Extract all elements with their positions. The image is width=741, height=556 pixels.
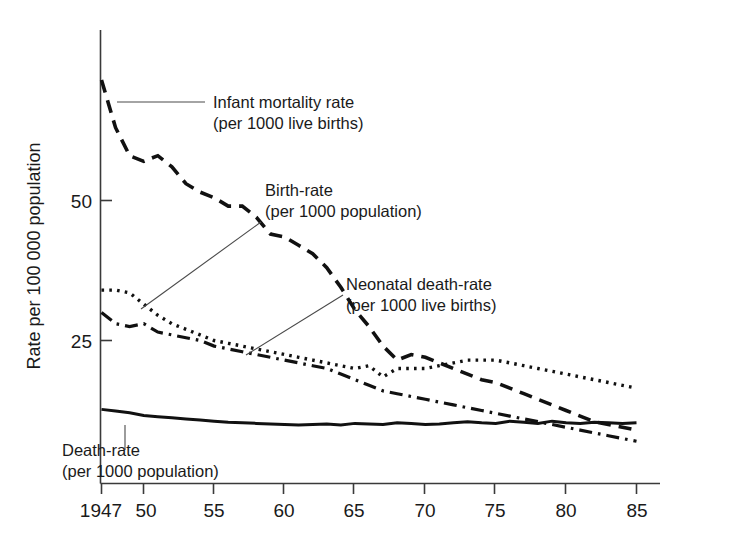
x-tick-label-70: 70 (414, 500, 435, 521)
annotation-neonatal-line1: Neonatal death-rate (346, 275, 492, 293)
leader-line-birth (141, 222, 261, 309)
annotation-death-line1: Death-rate (62, 441, 140, 459)
chart-figure: 50 25 1947 50 55 60 65 70 75 80 85 Rate … (0, 0, 741, 556)
annotation-neonatal: Neonatal death-rate (per 1000 live birth… (346, 275, 496, 314)
series-group (102, 80, 637, 441)
annotation-infant: Infant mortality rate (per 1000 live bir… (213, 93, 363, 132)
y-axis-title: Rate per 100 000 population (24, 142, 44, 369)
x-tick-label-55: 55 (203, 500, 224, 521)
leader-lines-group (117, 102, 343, 450)
series-infant-mortality-rate (102, 80, 637, 430)
annotation-birth-line1: Birth-rate (265, 181, 333, 199)
x-tick-label-85: 85 (626, 500, 647, 521)
series-death-rate (102, 409, 637, 425)
x-tick-label-60: 60 (273, 500, 294, 521)
annotation-infant-line1: Infant mortality rate (213, 93, 354, 111)
annotation-neonatal-line2: (per 1000 live births) (346, 296, 496, 314)
x-tick-label-80: 80 (555, 500, 576, 521)
annotation-death-line2: (per 1000 population) (62, 462, 219, 480)
y-tick-label-50: 50 (71, 191, 92, 212)
x-tick-label-65: 65 (343, 500, 364, 521)
x-tick-label-75: 75 (484, 500, 505, 521)
x-tick-label-1947: 1947 (80, 500, 122, 521)
annotation-infant-line2: (per 1000 live births) (213, 114, 363, 132)
x-tick-label-50: 50 (135, 500, 156, 521)
leader-line-neonatal (246, 295, 343, 355)
annotation-death: Death-rate (per 1000 population) (62, 441, 219, 480)
chart-svg: 50 25 1947 50 55 60 65 70 75 80 85 Rate … (0, 0, 741, 556)
annotation-birth-line2: (per 1000 population) (265, 202, 422, 220)
y-tick-label-25: 25 (71, 331, 92, 352)
annotation-birth: Birth-rate (per 1000 population) (265, 181, 422, 220)
